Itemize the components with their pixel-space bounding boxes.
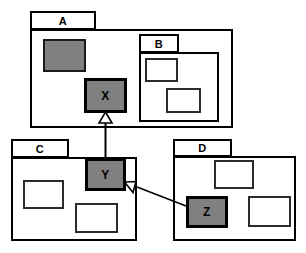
node-y[interactable]: Y — [85, 158, 126, 191]
package-d-tab: D — [173, 139, 232, 157]
package-d-inner-box-2 — [248, 196, 291, 227]
node-x[interactable]: X — [84, 78, 127, 113]
node-y-label: Y — [101, 168, 110, 182]
package-b-inner-box-2 — [166, 88, 201, 113]
node-z-label: Z — [203, 205, 211, 219]
package-a-shaded-box — [43, 39, 86, 72]
package-c-inner-box-2 — [75, 203, 118, 233]
package-a-tab: A — [30, 11, 96, 30]
package-b-label: B — [155, 38, 163, 50]
package-c-tab: C — [11, 139, 69, 158]
node-z[interactable]: Z — [186, 196, 228, 228]
package-a-label: A — [59, 15, 67, 27]
package-b-tab: B — [139, 34, 179, 53]
package-c-inner-box-1 — [23, 180, 64, 209]
package-d-inner-box-1 — [214, 160, 254, 189]
package-diagram: A B C D X — [0, 0, 306, 253]
package-c-label: C — [36, 143, 44, 155]
package-d-label: D — [198, 142, 206, 154]
package-b-inner-box-1 — [145, 58, 178, 82]
node-x-label: X — [101, 89, 110, 103]
